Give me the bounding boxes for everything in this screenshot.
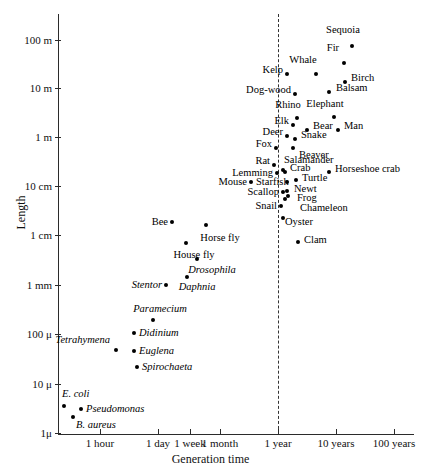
data-point-label: Turtle	[302, 173, 327, 184]
data-point	[249, 180, 253, 184]
data-point	[132, 349, 136, 353]
y-tick-mark	[55, 433, 61, 434]
data-point	[314, 72, 318, 76]
x-tick-mark	[278, 429, 279, 435]
data-point-label: Whale	[289, 55, 316, 66]
x-tick-mark	[158, 429, 159, 435]
y-tick-label: 1 cm	[0, 230, 52, 241]
data-point	[327, 90, 331, 94]
x-axis-title: Generation time	[0, 452, 421, 467]
data-point	[291, 146, 295, 150]
data-point	[294, 178, 298, 182]
x-tick-mark	[190, 429, 191, 435]
y-tick-label-wrap: 10 μ	[0, 379, 52, 390]
x-tick-label: 1 month	[202, 438, 238, 449]
data-point-label: E. coli	[62, 389, 89, 400]
data-point	[281, 190, 285, 194]
data-point-label: Balsam	[336, 83, 368, 94]
data-point	[184, 241, 188, 245]
data-point-label: House fly	[173, 250, 214, 261]
data-point-label: Spirochaeta	[142, 362, 192, 373]
data-point	[285, 72, 289, 76]
data-point	[285, 134, 289, 138]
data-point	[135, 365, 139, 369]
data-point	[62, 404, 66, 408]
data-point	[114, 348, 118, 352]
data-point-label: Kelp	[0, 65, 283, 76]
y-tick-label-wrap: 1 cm	[0, 230, 52, 241]
data-point	[204, 223, 208, 227]
data-point	[164, 283, 168, 287]
data-point	[291, 123, 295, 127]
data-point-label: Stentor	[0, 280, 162, 291]
data-point-label: Paramecium	[133, 304, 187, 315]
y-tick-mark	[55, 235, 61, 236]
scatter-plot: Length Generation time 100 m10 m1 m10 cm…	[0, 0, 421, 474]
data-point	[79, 407, 83, 411]
x-tick-label: 100 years	[373, 438, 415, 449]
data-point-label: Scallop	[0, 187, 279, 198]
data-point	[296, 240, 300, 244]
x-tick-label: 1 year	[264, 438, 291, 449]
data-point-label: Pseudomonas	[86, 404, 144, 415]
data-point	[293, 137, 297, 141]
y-tick-label-wrap: 1μ	[0, 428, 52, 439]
y-tick-mark	[55, 384, 61, 385]
data-point	[286, 194, 290, 198]
data-point	[283, 170, 287, 174]
x-tick-label: 1 day	[146, 438, 170, 449]
x-tick-mark	[220, 429, 221, 435]
data-point	[336, 128, 340, 132]
data-point	[274, 146, 278, 150]
y-tick-label: 10 μ	[0, 379, 52, 390]
data-point	[275, 171, 279, 175]
data-point	[71, 415, 75, 419]
y-tick-label: 1μ	[0, 428, 52, 439]
data-point	[285, 189, 289, 193]
x-axis-line	[58, 434, 414, 435]
data-point-label: Horse fly	[200, 233, 239, 244]
data-point-label: Deer	[0, 127, 283, 138]
data-point-label: Rat	[0, 156, 270, 167]
data-point-label: Fox	[0, 139, 272, 150]
data-point-label: Snail	[0, 201, 277, 212]
data-point-label: Sequoia	[326, 25, 360, 36]
x-tick-mark	[394, 429, 395, 435]
data-point	[279, 204, 283, 208]
data-point-label: Fir	[327, 43, 339, 54]
x-tick-label: 10 years	[318, 438, 355, 449]
y-tick-label-wrap: 100 m	[0, 35, 52, 46]
y-tick-label: 100 m	[0, 35, 52, 46]
data-point-label: B. aureus	[76, 420, 116, 431]
data-point	[332, 115, 336, 119]
one-year-reference-line	[278, 14, 279, 434]
data-point	[195, 257, 199, 261]
data-point-label: Chameleon	[300, 203, 348, 214]
data-point	[295, 116, 299, 120]
data-point	[151, 318, 155, 322]
data-point-label: Clam	[304, 235, 327, 246]
data-point	[293, 92, 297, 96]
data-point	[185, 275, 189, 279]
data-point	[132, 331, 136, 335]
data-point-label: Rhino	[275, 100, 301, 111]
data-point	[327, 170, 331, 174]
data-point-label: Horseshoe crab	[335, 164, 400, 175]
y-tick-mark	[55, 40, 61, 41]
data-point-label: Snake	[301, 130, 327, 141]
data-point-label: Dog-wood	[0, 85, 291, 96]
data-point-label: Drosophila	[188, 265, 235, 276]
data-point-label: Elk	[0, 116, 289, 127]
data-point-label: Daphnia	[179, 282, 216, 293]
x-tick-mark	[336, 429, 337, 435]
data-point-label: Oyster	[285, 217, 313, 228]
data-point	[350, 44, 354, 48]
data-point	[170, 220, 174, 224]
data-point-label: Euglena	[139, 346, 174, 357]
data-point-label: Didinium	[139, 328, 179, 339]
data-point-label: Elephant	[306, 99, 343, 110]
data-point-label: Man	[344, 121, 363, 132]
data-point-label: Tetrahymena	[0, 335, 110, 346]
data-point-label: Mouse	[0, 177, 247, 188]
data-point	[342, 61, 346, 65]
